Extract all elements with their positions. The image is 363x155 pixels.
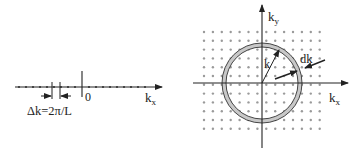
k-point-dot — [221, 128, 223, 130]
k-point-dot — [221, 119, 223, 121]
k-point-dot — [256, 66, 258, 68]
k-point-dot — [265, 128, 267, 130]
k-point-dot — [212, 128, 214, 130]
k-point-dot — [256, 110, 258, 112]
k-point-dot — [256, 128, 258, 130]
k-point-dot — [238, 75, 240, 77]
k-point-dot — [283, 119, 285, 121]
k-point-dot — [247, 110, 249, 112]
k-point-dot — [212, 66, 214, 68]
k-space-diagram: 0 kx Δk=2π/L ky kx k dk — [0, 0, 363, 155]
k-point-dot — [238, 128, 240, 130]
k-point-dot — [319, 84, 321, 86]
k-point-dot — [265, 110, 267, 112]
k-point-dot — [203, 110, 205, 112]
k-point-dot — [274, 101, 276, 103]
k-point-dot — [247, 75, 249, 77]
k-point-dot — [203, 128, 205, 130]
k-point-dot — [310, 119, 312, 121]
k-point-dot — [230, 31, 232, 33]
k-point-dot — [247, 40, 249, 42]
k-point-dot — [247, 128, 249, 130]
kx-label-1d: kx — [145, 90, 157, 107]
k-point-dot — [203, 75, 205, 77]
k-point-dot — [310, 128, 312, 130]
k-point-dot — [265, 31, 267, 33]
k-point-dot — [301, 40, 303, 42]
k-point-dot — [283, 101, 285, 103]
k-point-dot — [212, 31, 214, 33]
k-point-dot — [238, 92, 240, 94]
k-point-dot — [238, 84, 240, 86]
k-point-dot — [319, 31, 321, 33]
k-point-dot — [221, 101, 223, 103]
k-point-dot — [256, 57, 258, 59]
k-point-dot — [319, 66, 321, 68]
k-point-dot — [283, 92, 285, 94]
k-point-dot — [212, 75, 214, 77]
k-point-dot — [283, 57, 285, 59]
k-point-dot — [301, 48, 303, 50]
k-point-dot — [230, 92, 232, 94]
k-point-dot — [230, 84, 232, 86]
k-point-dot — [292, 40, 294, 42]
k-point-dot — [319, 48, 321, 50]
k-point-dot — [238, 119, 240, 121]
k-point-dot — [310, 75, 312, 77]
k-point-dot — [247, 31, 249, 33]
k-point-dot — [230, 48, 232, 50]
k-point-dot — [301, 31, 303, 33]
k-point-dot — [265, 84, 267, 86]
k-point-dot — [310, 101, 312, 103]
k-point-dot — [310, 92, 312, 94]
k-point-dot — [247, 66, 249, 68]
k-point-dot — [274, 31, 276, 33]
k-point-dot — [256, 92, 258, 94]
k-point-dot — [203, 101, 205, 103]
k-point-dot — [203, 92, 205, 94]
k-point-dot — [212, 119, 214, 121]
k-point-dot — [230, 119, 232, 121]
k-point-dot — [238, 57, 240, 59]
k-point-dot — [319, 92, 321, 94]
k-point-dot — [274, 92, 276, 94]
k-point-dot — [292, 75, 294, 77]
one-d-k-space: 0 kx Δk=2π/L — [15, 71, 162, 118]
k-point-dot — [230, 75, 232, 77]
k-point-dot — [256, 101, 258, 103]
k-point-dot — [230, 128, 232, 130]
k-point-dot — [221, 48, 223, 50]
k-point-dot — [212, 101, 214, 103]
k-point-dot — [256, 75, 258, 77]
k-point-dot — [283, 31, 285, 33]
k-point-dot — [203, 40, 205, 42]
k-point-dot — [247, 92, 249, 94]
k-point-dot — [238, 40, 240, 42]
k-point-dot — [283, 128, 285, 130]
k-point-dot — [247, 57, 249, 59]
k-point-dot — [301, 110, 303, 112]
k-point-dot — [230, 40, 232, 42]
k-point-dot — [292, 110, 294, 112]
k-point-dot — [292, 48, 294, 50]
k-point-dot — [212, 110, 214, 112]
ky-label: ky — [268, 9, 280, 26]
k-point-dot — [283, 66, 285, 68]
k-point-dot — [203, 57, 205, 59]
k-point-dot — [203, 31, 205, 33]
k-point-dot — [238, 66, 240, 68]
k-point-dot — [310, 40, 312, 42]
k-point-dot — [292, 92, 294, 94]
k-point-dot — [319, 110, 321, 112]
k-point-dot — [212, 40, 214, 42]
spacing-label: Δk=2π/L — [27, 104, 72, 118]
k-point-dot — [203, 48, 205, 50]
origin-label: 0 — [85, 90, 91, 104]
k-point-dot — [319, 57, 321, 59]
k-point-dot — [274, 40, 276, 42]
radius-label: k — [264, 57, 270, 71]
k-point-dot — [221, 110, 223, 112]
k-point-dot — [247, 84, 249, 86]
k-point-dot — [247, 101, 249, 103]
k-point-dot — [238, 101, 240, 103]
